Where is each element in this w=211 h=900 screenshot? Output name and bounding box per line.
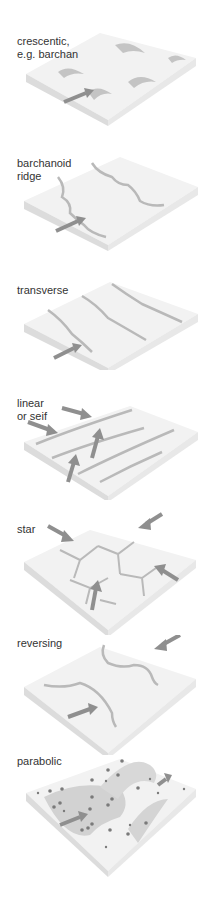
label-star: star <box>17 523 35 536</box>
star-dune-block <box>0 500 211 635</box>
label-reversing: reversing <box>17 637 62 650</box>
panel-parabolic: parabolic <box>0 755 211 900</box>
panel-star: star <box>0 500 211 635</box>
label-transverse: transverse <box>17 284 68 297</box>
panel-barchanoid: barchanoid ridge <box>0 127 211 252</box>
wind-arrow-icon <box>28 422 50 430</box>
panel-linear: linear or seif <box>0 370 211 500</box>
label-barchanoid: barchanoid ridge <box>17 157 71 183</box>
barchanoid-ridge-block <box>0 127 211 252</box>
panel-crescentic: crescentic, e.g. barchan <box>0 0 211 127</box>
parabolic-dune-block <box>0 755 211 900</box>
panel-transverse: transverse <box>0 252 211 370</box>
label-crescentic: crescentic, e.g. barchan <box>17 35 78 61</box>
panel-reversing: reversing <box>0 635 211 755</box>
reversing-dune-block <box>0 635 211 755</box>
transverse-dune-block <box>0 252 211 370</box>
label-linear: linear or seif <box>17 397 47 423</box>
linear-seif-dune-block <box>0 370 211 500</box>
label-parabolic: parabolic <box>17 755 62 768</box>
crescentic-dune-block <box>0 0 211 127</box>
wind-arrow-icon <box>62 408 84 414</box>
